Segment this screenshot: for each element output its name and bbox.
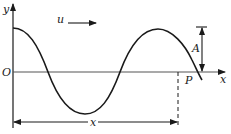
velocity-label: u xyxy=(57,13,64,26)
point-p-label: P xyxy=(184,74,193,87)
distance-label: x xyxy=(90,116,97,129)
wave-diagram: y x O u A P x xyxy=(0,0,231,134)
amplitude-label: A xyxy=(191,42,200,55)
origin-label: O xyxy=(2,66,11,79)
x-axis-label: x xyxy=(220,73,227,86)
y-axis-label: y xyxy=(2,3,10,16)
wave-curve xyxy=(13,28,202,114)
